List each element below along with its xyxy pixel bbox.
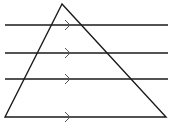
triangle <box>5 4 166 117</box>
parallel-lines-triangle-diagram <box>0 0 170 131</box>
parallel-arrow-markers <box>65 20 70 122</box>
parallel-lines <box>5 25 168 79</box>
